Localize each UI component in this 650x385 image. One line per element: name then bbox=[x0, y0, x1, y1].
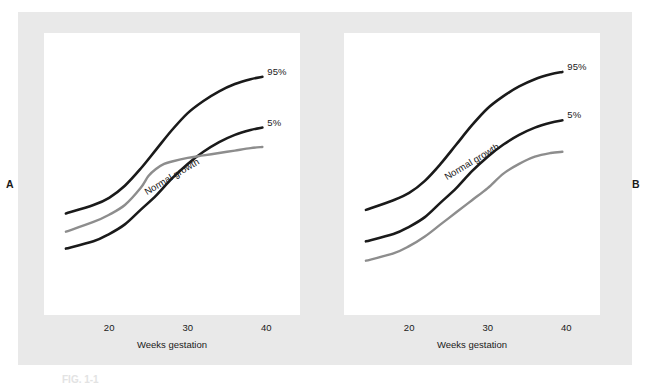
panel-a-label-5-percent: 5% bbox=[267, 117, 281, 128]
panel-a-curve-0 bbox=[66, 77, 262, 214]
panel-b-x-axis-title: Weeks gestation bbox=[437, 339, 507, 350]
panel-b-xtick-30: 30 bbox=[475, 322, 501, 333]
panel-a-curve-2 bbox=[66, 147, 262, 232]
panel-letter-b: B bbox=[632, 178, 640, 190]
panel-letter-a: A bbox=[6, 178, 14, 190]
panel-b-curve-0 bbox=[366, 72, 562, 210]
panel-b-curves bbox=[344, 33, 600, 315]
panel-b-xtick-20: 20 bbox=[396, 322, 422, 333]
panel-a-xtick-40: 40 bbox=[253, 322, 279, 333]
panel-b-curve-1 bbox=[366, 120, 562, 241]
panel-a-curve-1 bbox=[66, 128, 262, 249]
caption-fragment: FIG. 1-1 bbox=[62, 374, 99, 385]
figure-container: 95% 5% Normal growth 20 30 40 Weeks gest… bbox=[0, 0, 650, 385]
panel-a-label-95-percent: 95% bbox=[267, 66, 286, 77]
panel-b-label-95-percent: 95% bbox=[567, 61, 586, 72]
panel-b-label-5-percent: 5% bbox=[567, 109, 581, 120]
panel-a-xtick-20: 20 bbox=[96, 322, 122, 333]
panel-b-plot-area bbox=[344, 33, 600, 315]
panel-b-xtick-40: 40 bbox=[553, 322, 579, 333]
panel-a-x-axis-title: Weeks gestation bbox=[137, 339, 207, 350]
panel-a-xtick-30: 30 bbox=[175, 322, 201, 333]
